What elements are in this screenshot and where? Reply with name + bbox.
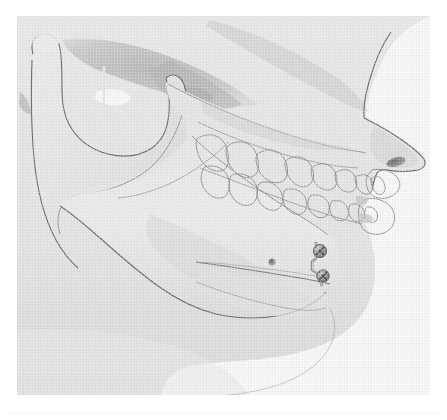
- halftone-texture-overlay: [17, 16, 430, 395]
- illustration-figure: Lateral skull profile illustration right…: [0, 0, 447, 420]
- lateral-skull-illustration: [0, 0, 447, 420]
